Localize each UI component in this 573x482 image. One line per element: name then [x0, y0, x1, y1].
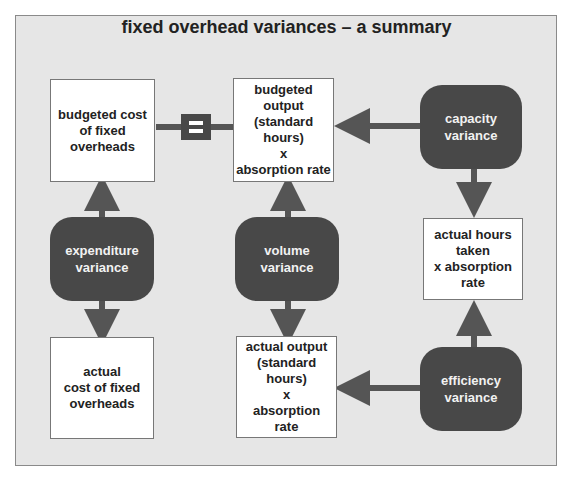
box-actual-output: actual output (standard hours) x absorpt…: [236, 336, 337, 438]
box-actual-hours: actual hours taken x absorption rate: [423, 218, 523, 300]
node-expenditure-variance: expenditure variance: [50, 217, 154, 301]
equals-sign: [181, 114, 211, 140]
node-capacity-variance: capacity variance: [420, 85, 522, 169]
box-budgeted-output: budgeted output (standard hours) x absor…: [233, 78, 334, 182]
node-efficiency-variance: efficiency variance: [420, 347, 522, 431]
box-actual-cost: actual cost of fixed overheads: [50, 337, 154, 439]
box-budgeted-cost: budgeted cost of fixed overheads: [50, 79, 155, 182]
node-volume-variance: volume variance: [235, 217, 339, 301]
